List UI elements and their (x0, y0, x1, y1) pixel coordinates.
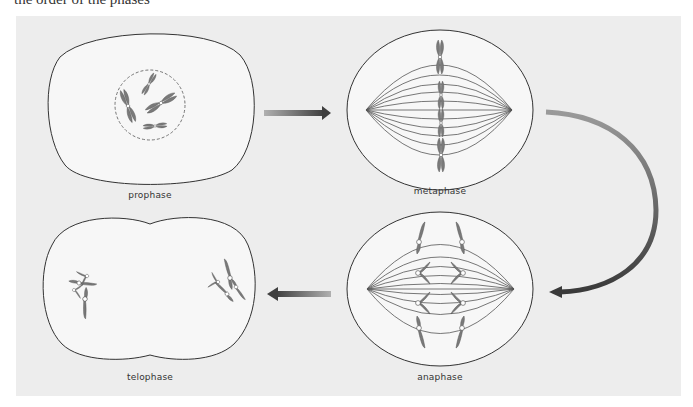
arrow-metaphase-to-anaphase (546, 112, 656, 298)
arrow-prophase-to-metaphase (264, 106, 331, 120)
metaphase-cell (347, 30, 533, 190)
anaphase-cell (347, 212, 533, 366)
mitosis-diagram (0, 0, 693, 407)
telophase-cell (43, 218, 255, 360)
label-telophase: telophase (127, 372, 173, 382)
label-metaphase: metaphase (414, 186, 466, 196)
label-anaphase: anaphase (417, 372, 463, 382)
label-prophase: prophase (128, 190, 171, 200)
arrow-anaphase-to-telophase (267, 287, 331, 301)
prophase-cell (48, 34, 254, 185)
